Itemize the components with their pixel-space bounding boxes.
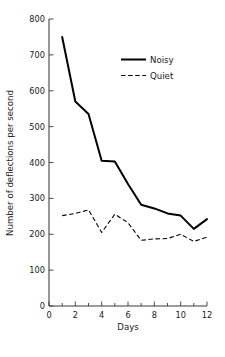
chart-legend: Noisy Quiet bbox=[121, 55, 174, 81]
series-line-noisy bbox=[62, 37, 207, 229]
y-tick-label: 200 bbox=[29, 229, 45, 239]
y-tick-label: 600 bbox=[29, 86, 45, 96]
x-axis-title: Days bbox=[117, 322, 139, 332]
x-tick-label: 12 bbox=[202, 310, 212, 320]
x-axis-tick-labels: 024681012 bbox=[46, 310, 212, 320]
y-tick-label: 400 bbox=[29, 158, 45, 168]
series-line-quiet bbox=[62, 210, 207, 242]
y-axis-title: Number of deflections per second bbox=[5, 90, 15, 236]
x-tick-label: 8 bbox=[152, 310, 157, 320]
legend-label-quiet: Quiet bbox=[150, 71, 174, 81]
x-tick-label: 4 bbox=[99, 310, 104, 320]
chart-figure: 0100200300400500600700800 024681012 Nois… bbox=[0, 0, 225, 357]
y-tick-label: 500 bbox=[29, 122, 45, 132]
y-tick-label: 300 bbox=[29, 193, 45, 203]
y-tick-label: 700 bbox=[29, 50, 45, 60]
x-tick-label: 2 bbox=[73, 310, 78, 320]
x-tick-label: 10 bbox=[175, 310, 185, 320]
y-tick-label: 100 bbox=[29, 265, 45, 275]
y-axis-ticks bbox=[49, 19, 54, 306]
x-tick-label: 6 bbox=[125, 310, 130, 320]
x-axis-ticks bbox=[49, 302, 207, 307]
x-tick-label: 0 bbox=[46, 310, 51, 320]
y-tick-label: 0 bbox=[40, 301, 45, 311]
legend-label-noisy: Noisy bbox=[150, 55, 174, 65]
line-chart-plot: 0100200300400500600700800 024681012 Nois… bbox=[0, 0, 225, 357]
y-axis-tick-labels: 0100200300400500600700800 bbox=[29, 14, 45, 311]
y-tick-label: 800 bbox=[29, 14, 45, 24]
